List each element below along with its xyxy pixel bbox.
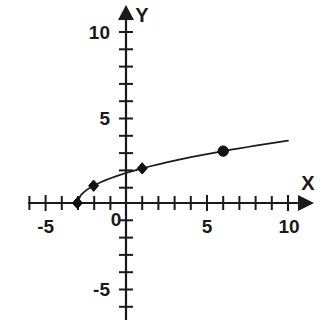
y-axis-arrow-icon [118, 5, 134, 20]
x-axis-arrow-icon [298, 195, 314, 211]
x-tick-label-5: 5 [202, 216, 213, 237]
x-tick-label-zero: 0 [111, 209, 122, 230]
x-tick-label-neg5: -5 [37, 216, 54, 237]
data-point [72, 197, 82, 208]
y-tick-label-5: 5 [99, 108, 110, 129]
y-axis-label: Y [135, 4, 149, 26]
data-point [218, 146, 228, 156]
y-tick-label-10: 10 [89, 22, 110, 43]
y-tick-label-neg5: -5 [93, 279, 110, 300]
coordinate-graph: -5 0 5 10 10 5 -5 X Y [0, 0, 328, 333]
x-axis-label: X [301, 172, 315, 194]
data-point [137, 163, 147, 174]
graph-canvas: -5 0 5 10 10 5 -5 X Y [0, 0, 328, 333]
function-curve [77, 141, 288, 203]
data-point [89, 180, 99, 191]
x-tick-label-10: 10 [278, 216, 299, 237]
